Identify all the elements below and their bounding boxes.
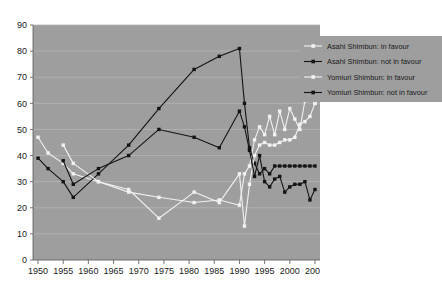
series-marker [303, 120, 306, 123]
series-marker [253, 154, 256, 157]
series-marker [218, 55, 221, 58]
series-marker [298, 183, 301, 186]
series-marker [313, 102, 316, 105]
series-marker [273, 164, 276, 167]
series-marker [62, 180, 65, 183]
series-marker [268, 143, 271, 146]
series-marker [157, 217, 160, 220]
x-tick-label: 1970 [129, 266, 149, 276]
series-marker [258, 125, 261, 128]
series-marker [97, 180, 100, 183]
series-marker [36, 136, 39, 139]
y-tick-label: 10 [17, 229, 27, 239]
legend-label: Asahi Shimbun: in favour [327, 42, 410, 51]
legend-marker [311, 91, 315, 95]
series-marker [293, 183, 296, 186]
series-marker [72, 162, 75, 165]
series-marker [313, 188, 316, 191]
series-marker [238, 203, 241, 206]
series-marker [127, 143, 130, 146]
series-marker [157, 107, 160, 110]
x-tick-label: 1990 [229, 266, 249, 276]
series-marker [293, 136, 296, 139]
crop-block-top-right [320, 0, 442, 36]
series-marker [238, 109, 241, 112]
x-tick-label: 1980 [179, 266, 199, 276]
series-marker [192, 68, 195, 71]
series-marker [303, 164, 306, 167]
series-marker [283, 128, 286, 131]
series-marker [258, 154, 261, 157]
series-marker [268, 172, 271, 175]
series-marker [36, 156, 39, 159]
y-tick-label: 70 [17, 72, 27, 82]
series-marker [278, 141, 281, 144]
series-marker [127, 154, 130, 157]
series-marker [258, 143, 261, 146]
series-marker [62, 159, 65, 162]
y-tick-label: 60 [17, 99, 27, 109]
series-marker [263, 141, 266, 144]
series-marker [157, 196, 160, 199]
y-tick-label: 20 [17, 203, 27, 213]
series-marker [253, 138, 256, 141]
y-tick-label: 40 [17, 151, 27, 161]
x-tick-label: 1995 [255, 266, 275, 276]
series-marker [218, 146, 221, 149]
legend-marker [311, 44, 315, 48]
x-tick-label: 2000 [280, 266, 300, 276]
series-marker [278, 164, 281, 167]
series-marker [218, 201, 221, 204]
series-marker [268, 185, 271, 188]
series-marker [298, 123, 301, 126]
series-marker [298, 164, 301, 167]
series-marker [192, 136, 195, 139]
y-tick-label: 90 [17, 20, 27, 30]
series-marker [278, 109, 281, 112]
line-chart: 0102030405060708090195019551960196519701… [0, 0, 442, 296]
series-marker [253, 175, 256, 178]
series-marker [288, 107, 291, 110]
series-marker [248, 149, 251, 152]
series-marker [283, 138, 286, 141]
crop-block-lower-right [320, 102, 442, 296]
series-marker [288, 138, 291, 141]
series-marker [97, 172, 100, 175]
series-marker [263, 167, 266, 170]
series-marker [288, 164, 291, 167]
series-marker [308, 115, 311, 118]
series-marker [278, 175, 281, 178]
series-marker [258, 172, 261, 175]
series-marker [243, 224, 246, 227]
x-tick-label: 1965 [104, 266, 124, 276]
series-marker [46, 167, 49, 170]
series-marker [238, 47, 241, 50]
series-marker [263, 180, 266, 183]
series-marker [248, 164, 251, 167]
series-marker [243, 125, 246, 128]
legend-label: Asahi Shimbun: not in favour [327, 57, 422, 66]
series-marker [127, 188, 130, 191]
y-tick-label: 30 [17, 177, 27, 187]
legend: Asahi Shimbun: in favourAsahi Shimbun: n… [300, 36, 442, 102]
series-marker [238, 172, 241, 175]
series-marker [192, 190, 195, 193]
series-marker [157, 128, 160, 131]
x-tick-label: 1960 [78, 266, 98, 276]
series-marker [293, 117, 296, 120]
series-marker [72, 183, 75, 186]
x-tick-label: 1950 [28, 266, 48, 276]
x-tick-label: 1985 [204, 266, 224, 276]
series-marker [273, 143, 276, 146]
chart-svg: 0102030405060708090195019551960196519701… [0, 0, 442, 296]
series-marker [72, 172, 75, 175]
series-marker [313, 164, 316, 167]
series-marker [293, 164, 296, 167]
series-marker [243, 172, 246, 175]
plot-area [33, 25, 320, 260]
series-marker [46, 151, 49, 154]
series-marker [97, 167, 100, 170]
series-marker [263, 133, 266, 136]
series-marker [308, 198, 311, 201]
legend-marker [311, 75, 315, 79]
